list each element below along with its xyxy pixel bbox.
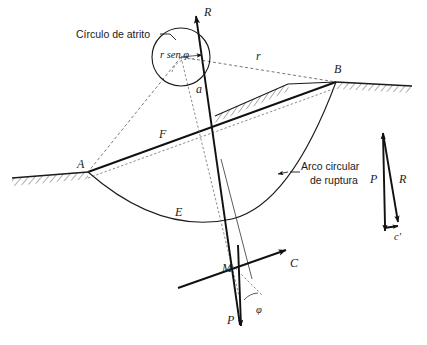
diagram-canvas: Círculo de atrito r sen φ R r a B A F E … xyxy=(0,0,427,345)
leader-rupture-arc xyxy=(278,172,300,174)
force-triangle xyxy=(383,133,398,231)
label-C: C xyxy=(290,256,299,270)
label-P-bottom: P xyxy=(226,313,235,327)
phi-angle-arc xyxy=(244,293,258,300)
triangle-label-c-prime: c' xyxy=(394,231,402,242)
auxiliary-dashed-lines xyxy=(88,57,336,300)
label-R-top: R xyxy=(203,5,212,19)
label-phi: φ xyxy=(256,304,262,315)
force-axis-C xyxy=(178,250,286,288)
label-M: M xyxy=(221,261,233,275)
rupture-arc-label-line1: Arco circular xyxy=(301,160,360,172)
radius-lines xyxy=(88,57,336,172)
label-F: F xyxy=(158,127,167,141)
label-a: a xyxy=(196,82,202,96)
ground-surface-left xyxy=(12,172,88,186)
label-A: A xyxy=(76,157,85,171)
label-E: E xyxy=(174,205,183,219)
triangle-label-P: P xyxy=(369,172,378,186)
friction-circle-diagram: Círculo de atrito r sen φ R r a B A F E … xyxy=(0,0,427,345)
label-r: r xyxy=(256,49,261,63)
friction-circle-label: Círculo de atrito xyxy=(76,28,150,40)
rupture-arc-label-line2: de ruptura xyxy=(310,174,358,186)
ground-surface-right xyxy=(336,82,412,93)
r-sen-phi-label: r sen φ xyxy=(160,49,189,60)
label-B: B xyxy=(334,62,342,76)
triangle-label-R: R xyxy=(398,172,407,186)
rupture-arc xyxy=(88,82,336,222)
